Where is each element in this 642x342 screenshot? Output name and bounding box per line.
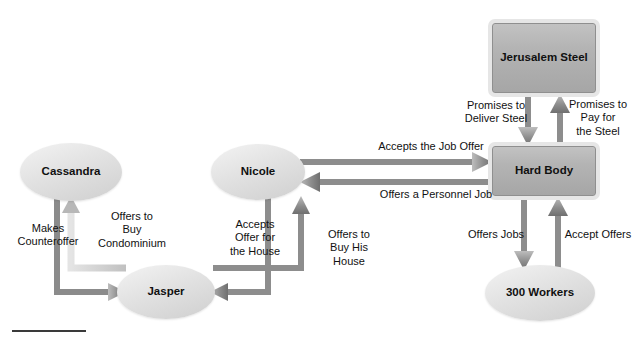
edge-label-accept-offers: Accept Offers bbox=[562, 228, 634, 241]
node-hard-body[interactable]: Hard Body bbox=[492, 146, 596, 196]
node-nicole-label: Nicole bbox=[241, 165, 276, 179]
node-cassandra-label: Cassandra bbox=[42, 165, 101, 179]
edge-label-offers-jobs: Offers Jobs bbox=[464, 228, 528, 241]
relationship-diagram: Cassandra Jasper Nicole Jerusalem Steel … bbox=[0, 0, 642, 342]
footer-divider-rule bbox=[12, 330, 86, 332]
node-cassandra[interactable]: Cassandra bbox=[24, 147, 118, 197]
edge-label-offers-personnel-job: Offers a Personnel Job bbox=[372, 188, 500, 201]
node-jerusalem-steel[interactable]: Jerusalem Steel bbox=[492, 23, 596, 93]
edge-label-promises-deliver-steel: Promises to Deliver Steel bbox=[455, 99, 537, 126]
node-hard-body-label: Hard Body bbox=[515, 164, 573, 178]
edge-label-offers-buy-his-house: Offers to Buy His House bbox=[320, 228, 378, 268]
node-nicole[interactable]: Nicole bbox=[215, 148, 301, 196]
node-300-workers[interactable]: 300 Workers bbox=[489, 269, 591, 317]
edge-label-accepts-offer-house: Accepts Offer for the House bbox=[224, 218, 286, 258]
edge-accepts-job-offer bbox=[300, 152, 492, 172]
node-300-workers-label: 300 Workers bbox=[506, 286, 574, 300]
node-jasper-label: Jasper bbox=[147, 285, 184, 299]
edge-label-promises-pay-steel: Promises to Pay for the Steel bbox=[560, 98, 636, 138]
edge-label-accepts-job-offer: Accepts the Job Offer bbox=[366, 140, 496, 153]
edge-label-makes-counteroffer: Makes Counteroffer bbox=[13, 222, 83, 249]
node-jerusalem-steel-label: Jerusalem Steel bbox=[500, 51, 588, 65]
edge-label-offers-condominium: Offers to Buy Condominium bbox=[90, 210, 174, 250]
node-jasper[interactable]: Jasper bbox=[121, 269, 211, 315]
